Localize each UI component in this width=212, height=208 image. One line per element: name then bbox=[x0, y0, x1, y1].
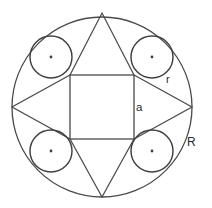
star-point-top bbox=[70, 13, 134, 75]
star-point-bottom bbox=[70, 139, 134, 197]
star-point-left bbox=[12, 75, 70, 139]
central-square bbox=[70, 75, 134, 139]
diagram-canvas bbox=[0, 0, 212, 208]
circumscribed-circle bbox=[12, 17, 192, 197]
geometry-figure: r a R bbox=[0, 0, 212, 208]
center-dot-bottom-right bbox=[151, 150, 154, 153]
center-dot-bottom-left bbox=[50, 150, 53, 153]
label-square-side: a bbox=[136, 102, 142, 114]
center-dot-top-right bbox=[151, 56, 154, 59]
label-large-radius: R bbox=[187, 136, 196, 148]
star-point-right bbox=[134, 75, 192, 139]
label-small-radius: r bbox=[166, 74, 170, 85]
center-dot-top-left bbox=[50, 56, 53, 59]
